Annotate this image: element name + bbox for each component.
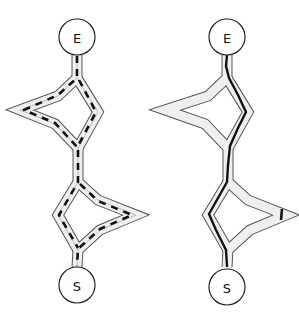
end-node-right: E — [209, 19, 245, 55]
left-panel: E S — [20, 19, 136, 303]
end-node-label: E — [223, 31, 231, 46]
start-node-left: S — [59, 267, 95, 303]
diagram-canvas: E S E S — [0, 0, 299, 317]
right-corridors — [165, 55, 286, 267]
dead-end-mark — [281, 209, 282, 220]
start-node-label: S — [73, 279, 81, 294]
left-corridors — [20, 55, 136, 267]
start-node-label: S — [223, 281, 231, 296]
start-node-right: S — [209, 269, 245, 305]
right-panel: E S — [165, 19, 286, 305]
end-node-label: E — [73, 31, 81, 46]
end-node-left: E — [59, 19, 95, 55]
